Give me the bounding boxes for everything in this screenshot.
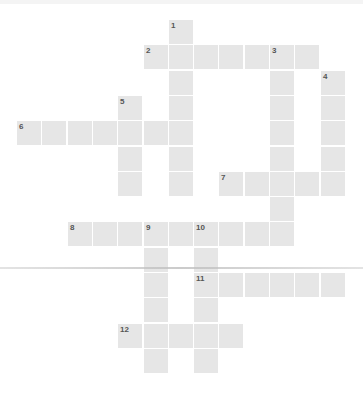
crossword-cell[interactable]: [169, 147, 193, 171]
crossword-cell[interactable]: [219, 222, 243, 246]
crossword-cell[interactable]: [144, 273, 168, 297]
clue-number: 8: [70, 223, 74, 232]
crossword-cell[interactable]: [245, 222, 269, 246]
crossword-cell[interactable]: [219, 45, 243, 69]
crossword-cell[interactable]: [194, 324, 218, 348]
crossword-cell[interactable]: [144, 121, 168, 145]
crossword-cell[interactable]: [194, 45, 218, 69]
crossword-cell[interactable]: [270, 172, 294, 196]
crossword-cell[interactable]: [118, 147, 142, 171]
crossword-cell[interactable]: [245, 45, 269, 69]
crossword-cell[interactable]: 12: [118, 324, 142, 348]
crossword-cell[interactable]: 7: [219, 172, 243, 196]
crossword-cell[interactable]: [93, 121, 117, 145]
crossword-cell[interactable]: [68, 121, 92, 145]
clue-number: 5: [120, 97, 124, 106]
clue-number: 11: [196, 274, 204, 283]
crossword-cell[interactable]: [118, 121, 142, 145]
scan-artifact-line: [0, 267, 363, 269]
crossword-cell[interactable]: 6: [17, 121, 41, 145]
crossword-cell[interactable]: 8: [68, 222, 92, 246]
clue-number: 4: [323, 72, 327, 81]
crossword-cell[interactable]: [245, 273, 269, 297]
crossword-cell[interactable]: 5: [118, 96, 142, 120]
crossword-cell[interactable]: [295, 45, 319, 69]
clue-number: 7: [221, 173, 225, 182]
crossword-cell[interactable]: [321, 273, 345, 297]
crossword-grid: 123456789101112: [0, 0, 363, 399]
crossword-cell[interactable]: [321, 172, 345, 196]
crossword-cell[interactable]: [219, 273, 243, 297]
crossword-cell[interactable]: 3: [270, 45, 294, 69]
clue-number: 1: [171, 21, 175, 30]
crossword-cell[interactable]: [144, 349, 168, 373]
crossword-cell[interactable]: 11: [194, 273, 218, 297]
clue-number: 9: [146, 223, 150, 232]
clue-number: 12: [120, 325, 129, 334]
clue-number: 3: [272, 46, 276, 55]
crossword-cell[interactable]: [194, 298, 218, 322]
crossword-cell[interactable]: [118, 222, 142, 246]
crossword-cell[interactable]: [270, 147, 294, 171]
crossword-cell[interactable]: [270, 71, 294, 95]
crossword-cell[interactable]: [93, 222, 117, 246]
crossword-cell[interactable]: [194, 349, 218, 373]
crossword-cell[interactable]: [295, 273, 319, 297]
crossword-cell[interactable]: [169, 172, 193, 196]
crossword-cell[interactable]: [144, 298, 168, 322]
clue-number: 10: [196, 223, 205, 232]
crossword-cell[interactable]: 9: [144, 222, 168, 246]
crossword-cell[interactable]: [219, 324, 243, 348]
crossword-cell[interactable]: [270, 121, 294, 145]
crossword-cell[interactable]: [270, 96, 294, 120]
crossword-cell[interactable]: [270, 273, 294, 297]
crossword-cell[interactable]: [169, 222, 193, 246]
crossword-cell[interactable]: 10: [194, 222, 218, 246]
crossword-cell[interactable]: [321, 96, 345, 120]
crossword-cell[interactable]: 1: [169, 20, 193, 44]
crossword-cell[interactable]: 2: [144, 45, 168, 69]
crossword-cell[interactable]: [169, 324, 193, 348]
clue-number: 6: [19, 122, 23, 131]
crossword-cell[interactable]: 4: [321, 71, 345, 95]
clue-number: 2: [146, 46, 150, 55]
crossword-cell[interactable]: [144, 324, 168, 348]
crossword-cell[interactable]: [169, 45, 193, 69]
crossword-cell[interactable]: [169, 71, 193, 95]
crossword-cell[interactable]: [270, 197, 294, 221]
crossword-cell[interactable]: [295, 172, 319, 196]
crossword-cell[interactable]: [118, 172, 142, 196]
crossword-cell[interactable]: [321, 121, 345, 145]
crossword-cell[interactable]: [245, 172, 269, 196]
crossword-cell[interactable]: [321, 147, 345, 171]
crossword-cell[interactable]: [169, 96, 193, 120]
crossword-cell[interactable]: [42, 121, 66, 145]
crossword-cell[interactable]: [169, 121, 193, 145]
crossword-cell[interactable]: [270, 222, 294, 246]
